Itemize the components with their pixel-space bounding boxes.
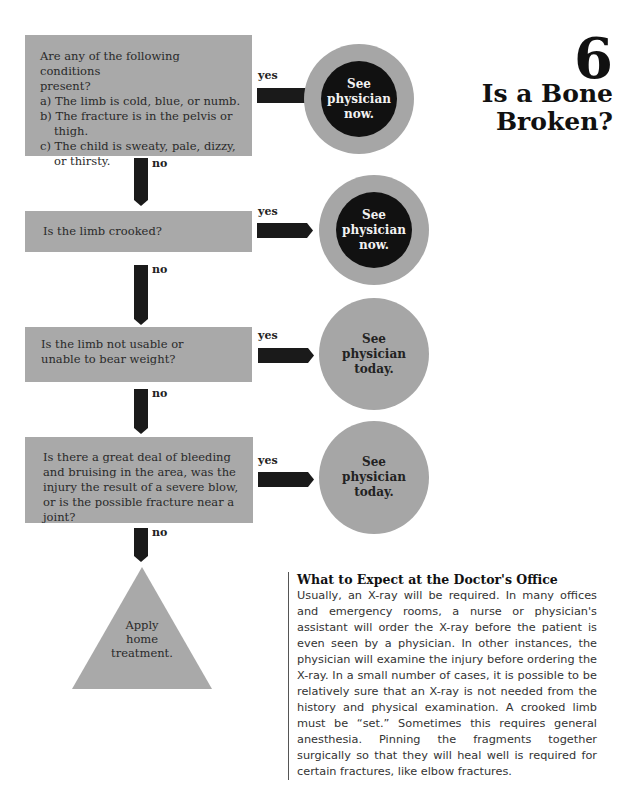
outcome-text-2: See physician now. [342,208,406,253]
outcome-circle-1: See physician now. [304,44,414,154]
sidebar-body: Usually, an X-ray will be required. In m… [297,588,597,780]
question-1-intro-2: present? [40,79,242,94]
outcome-text-1: See physician now. [327,77,391,122]
question-box-1: Are any of the following conditions pres… [25,35,252,156]
question-box-3: Is the limb not usable or unable to bear… [25,327,252,382]
yes-label-2: yes [258,205,278,218]
arrow-right-icon [257,223,313,238]
outcome-3-line-3: today. [342,362,406,377]
arrow-right-icon [258,348,314,363]
outcome-text-3: See physician today. [342,332,406,377]
arrow-down-icon [134,265,148,325]
outcome-1-line-2: physician [327,92,391,107]
outcome-inner-2: See physician now. [336,192,412,268]
chapter-number: 6 [574,30,613,86]
final-line-2: home [92,632,192,646]
outcome-2-line-3: now. [342,238,406,253]
outcome-4-line-3: today. [342,485,406,500]
title-line-1: Is a Bone [482,80,613,108]
outcome-text-4: See physician today. [342,455,406,500]
outcome-inner-1: See physician now. [321,61,397,137]
outcome-4-line-2: physician [342,470,406,485]
outcome-1-line-3: now. [327,107,391,122]
question-1-item-a: a) The limb is cold, blue, or numb. [40,94,242,109]
outcome-circle-3: See physician today. [319,298,429,410]
arrow-down-icon [134,389,148,434]
no-label-4: no [152,526,167,539]
outcome-4-line-1: See [342,455,406,470]
arrow-down-icon [134,528,148,562]
arrow-down-icon [134,158,148,206]
doctor-office-sidebar: What to Expect at the Doctor's Office Us… [288,572,597,780]
final-line-1: Apply [92,618,192,632]
outcome-3-line-1: See [342,332,406,347]
question-1-intro-1: Are any of the following conditions [40,49,242,79]
outcome-1-line-1: See [327,77,391,92]
outcome-circle-4: See physician today. [319,421,429,534]
no-label-1: no [152,157,167,170]
yes-label-1: yes [258,69,278,82]
sidebar-heading: What to Expect at the Doctor's Office [297,572,597,588]
no-label-3: no [152,387,167,400]
arrow-right-icon [258,472,314,487]
no-label-2: no [152,263,167,276]
question-box-2: Is the limb crooked? [25,211,252,252]
page-title: Is a Bone Broken? [482,80,613,136]
question-4-text: Is there a great deal of bleeding and br… [43,450,239,525]
yes-label-4: yes [258,454,278,467]
home-treatment-text: Apply home treatment. [92,618,192,660]
outcome-2-line-1: See [342,208,406,223]
question-1-item-b: b) The fracture is in the pelvis or thig… [40,109,242,139]
outcome-circle-2: See physician now. [319,175,429,285]
question-3-text: Is the limb not usable or unable to bear… [41,337,192,367]
yes-label-3: yes [258,329,278,342]
final-line-3: treatment. [92,646,192,660]
outcome-2-line-2: physician [342,223,406,238]
outcome-3-line-2: physician [342,347,406,362]
title-line-2: Broken? [482,108,613,136]
question-box-4: Is there a great deal of bleeding and br… [25,437,253,523]
question-2-text: Is the limb crooked? [43,224,242,239]
